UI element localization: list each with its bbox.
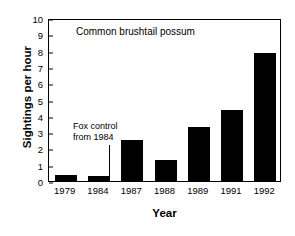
y-tick-label: 10 <box>21 15 43 25</box>
y-tick-label: 7 <box>21 64 43 74</box>
annotation-line-2: from 1984 <box>73 132 118 143</box>
x-tick-mark <box>99 177 100 181</box>
y-tick-mark <box>49 101 53 102</box>
y-tick-label: 9 <box>21 32 43 42</box>
y-tick-mark <box>49 150 53 151</box>
y-tick-mark <box>49 68 53 69</box>
y-tick-label: 1 <box>21 162 43 172</box>
bar-1987 <box>121 140 143 181</box>
x-axis-title: Year <box>48 207 281 219</box>
y-tick-mark <box>49 36 53 37</box>
bar-1991 <box>221 110 243 181</box>
y-tick-mark <box>49 85 53 86</box>
chart-figure: Sightings per hour 012345678910 Common b… <box>0 0 295 236</box>
y-tick-label: 6 <box>21 80 43 90</box>
plot-area: 012345678910 <box>48 19 281 182</box>
bar-1992 <box>254 53 276 181</box>
y-tick-label: 5 <box>21 97 43 107</box>
y-tick-mark <box>49 52 53 53</box>
x-tick-mark <box>66 177 67 181</box>
y-tick-label: 8 <box>21 48 43 58</box>
y-tick-mark <box>49 183 53 184</box>
y-tick-mark <box>49 20 53 21</box>
x-tick-mark <box>265 177 266 181</box>
y-tick-label: 4 <box>21 113 43 123</box>
annotation-line-1: Fox control <box>73 121 118 132</box>
x-tick-mark <box>232 177 233 181</box>
x-tick-mark <box>199 177 200 181</box>
y-tick-label: 2 <box>21 146 43 156</box>
y-tick-label: 0 <box>21 178 43 188</box>
y-tick-mark <box>49 117 53 118</box>
bar-1989 <box>188 127 210 181</box>
annotation-leader-line <box>109 145 110 176</box>
y-tick-mark <box>49 134 53 135</box>
chart-title: Common brushtail possum <box>76 26 195 38</box>
y-tick-label: 3 <box>21 129 43 139</box>
y-tick-mark <box>49 166 53 167</box>
x-tick-label-1992: 1992 <box>241 186 287 196</box>
annotation-fox-control: Fox control from 1984 <box>73 121 118 144</box>
x-tick-mark <box>132 177 133 181</box>
x-tick-mark <box>166 177 167 181</box>
